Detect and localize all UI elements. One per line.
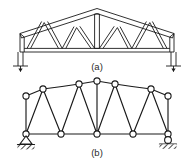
joint-top-2 [76,81,82,87]
joint-top-4 [148,86,154,92]
joint-top-3 [112,81,118,87]
roller-wheel [165,137,172,144]
joint-top-left-eave [23,93,29,99]
joint-bottom-2 [130,131,136,137]
joint-bottom-1 [58,131,64,137]
truss-figure-svg: (a) [0,0,194,161]
panel-b-caption: (b) [91,147,103,158]
joint-top-1 [40,86,46,92]
ground-hatch-left [18,145,35,149]
ground-hatch-right [160,144,177,148]
joint-bottom-center [94,131,100,137]
joint-apex [94,78,100,84]
joint-top-right-eave [165,93,171,99]
truss-figure: (a) [0,0,194,161]
panel-a-caption: (a) [91,61,103,72]
